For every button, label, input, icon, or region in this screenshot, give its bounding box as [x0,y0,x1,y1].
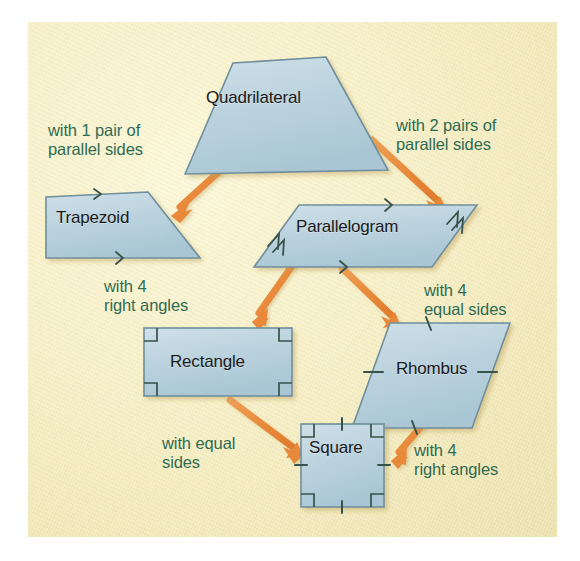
shape-label-rectangle: Rectangle [170,352,245,372]
shape-label-rhombus: Rhombus [396,359,467,379]
edge-label-parallelogram-to-rhombus-line2: equal sides [424,300,506,319]
edge-label-parallelogram-to-rhombus-line1: with 4 [424,281,467,300]
shape-label-square: Square [309,438,363,458]
edge-label-quad-to-parallelogram-line1: with 2 pairs of [396,116,496,135]
shape-quadrilateral[interactable] [185,57,388,174]
shape-square[interactable] [295,418,390,513]
edge-label-rhombus-to-square-line2: right angles [414,460,498,479]
shape-label-parallelogram: Parallelogram [296,217,398,237]
shape-label-trapezoid: Trapezoid [56,208,129,228]
arrow-rectangle-to-square [230,400,303,464]
edge-label-rhombus-to-square-line1: with 4 [414,441,457,460]
edge-label-rectangle-to-square-line2: sides [162,453,200,472]
edge-label-parallelogram-to-rectangle-line2: right angles [104,296,188,315]
edge-label-quad-to-trapezoid-line1: with 1 pair of [48,121,140,140]
edge-label-quad-to-trapezoid-line2: parallel sides [48,140,143,159]
edge-label-rectangle-to-square-line1: with equal [162,434,235,453]
edge-label-quad-to-parallelogram-line2: parallel sides [396,135,491,154]
arrow-parallelogram-to-rectangle [252,266,292,330]
edge-label-parallelogram-to-rectangle-line1: with 4 [104,277,147,296]
diagram-canvas: Quadrilateral Trapezoid Parallelogram Re… [0,0,580,561]
shape-label-quadrilateral: Quadrilateral [206,88,301,108]
